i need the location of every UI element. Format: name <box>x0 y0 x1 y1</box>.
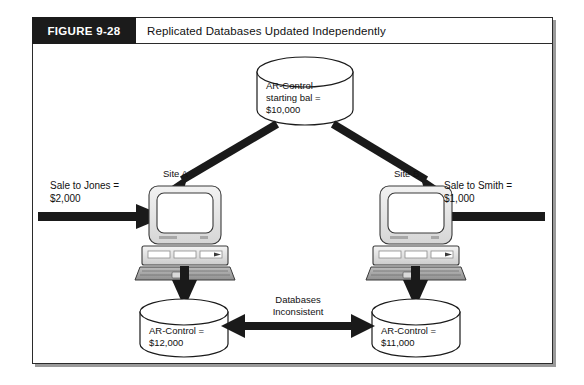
figure-title: Replicated Databases Updated Independent… <box>147 25 386 37</box>
figure-number-text: FIGURE 9-28 <box>48 25 121 37</box>
db-a-line1: AR-Control = <box>149 325 204 337</box>
db-b-line1: AR-Control = <box>381 325 436 337</box>
sale-to-jones-line1: Sale to Jones = <box>50 179 119 192</box>
inconsistent-label-line2: Inconsistent <box>258 306 338 318</box>
site-a-label: Site A <box>163 168 188 180</box>
sale-to-jones-line2: $2,000 <box>50 192 81 205</box>
arrow-sale-to-jones <box>38 204 166 229</box>
figure-title-box: Replicated Databases Updated Independent… <box>136 17 553 44</box>
master-db-line2: starting bal = <box>266 92 321 104</box>
figure-header: FIGURE 9-28 Replicated Databases Updated… <box>32 17 553 44</box>
master-db-line3: $10,000 <box>266 104 300 116</box>
site-b-label: Site B <box>394 168 419 180</box>
db-a-line2: $12,000 <box>149 337 183 349</box>
sale-to-smith-line1: Sale to Smith = <box>444 179 512 192</box>
figure-number-badge: FIGURE 9-28 <box>32 17 136 44</box>
arrow-master-to-site-a <box>163 124 277 196</box>
db-b-line2: $11,000 <box>381 337 415 349</box>
sale-to-smith-line2: $1,000 <box>444 192 475 205</box>
master-db-line1: AR-Control <box>266 80 313 92</box>
inconsistent-label-line1: Databases <box>258 294 338 306</box>
figure-9-28: FIGURE 9-28 Replicated Databases Updated… <box>0 0 584 385</box>
arrow-master-to-site-b <box>333 124 445 196</box>
diagram-canvas: AR-Control starting bal = $10,000 Site A… <box>32 44 553 364</box>
